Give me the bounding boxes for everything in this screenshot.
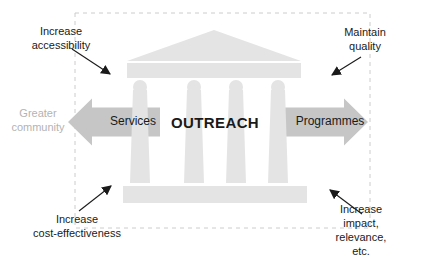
annotation-arrow-top-left (72, 49, 110, 74)
annotation-maintain-quality: Maintain quality (336, 25, 395, 53)
temple-pediment (127, 30, 301, 61)
outreach-title: OUTREACH (171, 113, 259, 132)
programmes-label: Programmes (296, 114, 365, 129)
temple-column (268, 90, 288, 183)
annotation-increase-cost-effectiveness: Increase cost-effectiveness (33, 212, 121, 240)
annotation-arrow-top-right (332, 57, 361, 75)
annotation-arrow-bottom-left (79, 186, 111, 211)
diagram-canvas: Increase accessibility Maintain quality … (0, 0, 424, 257)
temple-column (184, 90, 204, 183)
greater-community-label: Greater community (11, 106, 64, 134)
temple-base (123, 186, 307, 203)
temple-column (130, 90, 150, 183)
annotation-increase-accessibility: Increase accessibility (32, 24, 91, 52)
services-label: Services (110, 114, 156, 129)
temple-column (226, 90, 246, 183)
annotation-increase-impact: Increase impact, relevance, etc. (330, 202, 393, 257)
temple-entablature (127, 63, 301, 78)
